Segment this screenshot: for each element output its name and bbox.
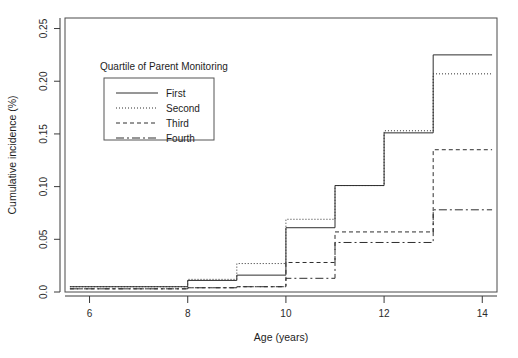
y-tick-label: 0.10 xyxy=(38,176,49,196)
y-axis-title: Cumulative incidence (%) xyxy=(6,95,18,214)
data-series-group xyxy=(70,55,492,289)
legend-title: Quartile of Parent Monitoring xyxy=(100,61,228,72)
x-tick-label: 10 xyxy=(280,308,292,319)
x-tick-label: 12 xyxy=(379,308,391,319)
x-tick-label: 6 xyxy=(87,308,93,319)
legend-label-fourth: Fourth xyxy=(166,133,195,144)
y-tick-label: 0.15 xyxy=(38,124,49,144)
series-line-second xyxy=(70,74,492,287)
x-tick-label: 14 xyxy=(477,308,489,319)
legend-entries: FirstSecondThirdFourth xyxy=(116,88,200,144)
x-axis-ticks: 68101214 xyxy=(87,296,489,319)
y-tick-label: 0.05 xyxy=(38,229,49,249)
legend-label-second: Second xyxy=(166,103,200,114)
series-line-third xyxy=(70,150,492,289)
chart-figure: 0.00.050.100.150.200.25 68101214 Age (ye… xyxy=(0,0,518,358)
legend-label-third: Third xyxy=(166,118,189,129)
x-axis-title: Age (years) xyxy=(254,331,308,343)
chart-canvas: 0.00.050.100.150.200.25 68101214 Age (ye… xyxy=(0,0,518,358)
legend-label-first: First xyxy=(166,88,186,99)
chart-legend: Quartile of Parent Monitoring FirstSecon… xyxy=(100,61,228,144)
y-tick-label: 0.20 xyxy=(38,71,49,91)
y-tick-label: 0.25 xyxy=(38,18,49,38)
plot-frame xyxy=(65,18,497,292)
x-tick-label: 8 xyxy=(185,308,191,319)
y-tick-label: 0.0 xyxy=(38,285,49,299)
y-axis-ticks: 0.00.050.100.150.200.25 xyxy=(38,18,60,299)
series-line-first xyxy=(70,55,492,287)
series-line-fourth xyxy=(70,210,492,289)
